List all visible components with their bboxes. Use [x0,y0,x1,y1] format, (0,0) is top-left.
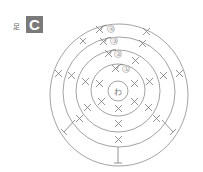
round-2-number: ② [116,50,121,57]
round-start-markers: ④ ③ ② ① [96,25,130,73]
crochet-chart: わ ④ ③ [0,0,203,172]
magic-ring-label: わ [114,88,122,97]
round-4-number: ④ [109,25,114,32]
round-1-number: ① [124,65,129,72]
round-3-number: ③ [112,37,117,44]
